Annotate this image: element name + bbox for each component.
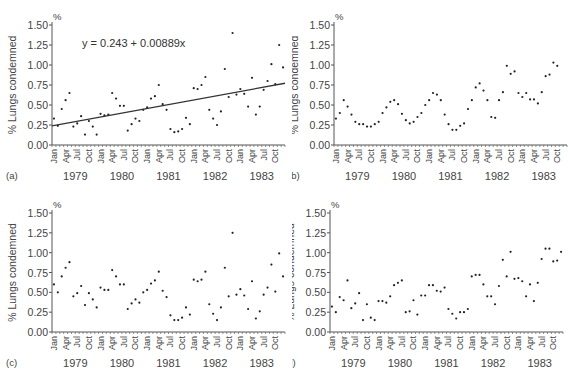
y-tick-label: 1.50 [28,19,49,31]
y-axis-label: % Lungs condemned [292,36,300,135]
data-point [123,283,125,285]
y-tick-label: 0.25 [28,119,49,131]
month-tick-label: Jan [517,149,527,164]
y-tick-label: 1.25 [28,39,49,51]
data-point [548,248,550,250]
data-point [263,89,265,91]
data-point [506,65,508,67]
data-point [424,104,426,106]
month-tick-label: Jul [72,336,82,348]
data-point [412,299,414,301]
data-point [362,123,364,125]
month-tick-label: Jul [490,336,500,348]
data-point [72,126,74,128]
data-point [64,267,66,269]
y-tick-label: 0.25 [306,306,327,318]
data-point [556,65,558,67]
data-point [251,77,253,79]
month-tick-label: Oct [177,149,187,164]
data-point [498,285,500,287]
data-point [88,120,90,122]
data-point [513,278,515,280]
data-point [447,308,449,310]
data-point [490,116,492,118]
month-tick-label: Jul [259,336,269,348]
data-point [366,303,368,305]
month-tick-label: Apr [154,149,164,163]
month-tick-label: Jul [401,149,411,161]
data-point [282,275,284,277]
data-point [533,300,535,302]
data-point [208,109,210,111]
data-point [471,99,473,101]
data-point [552,62,554,64]
data-point [247,106,249,108]
month-tick-label: Oct [177,336,187,351]
month-tick-label: Oct [362,336,372,351]
month-tick-label: Apr [200,336,210,350]
year-label: 1980 [392,170,416,182]
data-point [521,96,523,98]
year-label: 1981 [156,170,180,182]
year-label: 1982 [481,357,505,369]
month-tick-label: Jan [189,149,199,164]
data-point [350,114,352,116]
month-tick-label: Jul [541,149,551,161]
year-label: 1981 [438,170,462,182]
data-point [270,263,272,265]
data-point [212,118,214,120]
chart-panel-d: 0.000.250.500.751.001.251.50%% Lungs con… [292,185,584,370]
data-point [208,303,210,305]
data-point [138,302,140,304]
data-point [200,84,202,86]
regression-equation: y = 0.243 + 0.00889x [82,37,186,49]
data-point [282,66,284,68]
data-point [409,122,411,124]
data-point [541,258,543,260]
month-tick-label: Oct [455,336,465,351]
data-point [451,129,453,131]
data-point [486,99,488,101]
data-point [463,311,465,313]
data-point [76,122,78,124]
data-point [482,90,484,92]
data-point [231,32,233,34]
y-tick-label: 1.50 [310,19,331,31]
data-point [224,68,226,70]
y-tick-label: 0.75 [306,267,327,279]
month-tick-label: Apr [61,336,71,350]
year-label: 1983 [249,357,273,369]
data-point [552,260,554,262]
data-point [537,102,539,104]
month-tick-label: Apr [482,149,492,163]
chart-panel-a: 0.000.250.500.751.001.251.50%% Lungs con… [0,0,292,185]
month-tick-label: Jul [212,336,222,348]
data-point [343,99,345,101]
month-tick-label: Jul [72,149,82,161]
data-point [436,94,438,96]
data-point [103,289,105,291]
chart-panel-b: 0.000.250.500.751.001.251.50%% Lungs con… [292,0,584,185]
data-point [350,307,352,309]
data-point [204,271,206,273]
data-point [482,283,484,285]
month-tick-label: Apr [61,149,71,163]
data-point [220,306,222,308]
data-point [235,94,237,96]
data-point [342,299,344,301]
data-point [193,87,195,89]
data-point [84,134,86,136]
data-point [447,123,449,125]
data-point [490,295,492,297]
year-label: 1980 [110,357,134,369]
data-point [88,292,90,294]
y-tick-label: 1.25 [306,227,327,239]
year-label: 1979 [345,170,369,182]
data-point [486,295,488,297]
month-tick-label: Oct [270,149,280,164]
data-point [53,118,55,120]
data-point [381,112,383,114]
data-point [189,313,191,315]
data-point [548,74,550,76]
data-point [478,274,480,276]
